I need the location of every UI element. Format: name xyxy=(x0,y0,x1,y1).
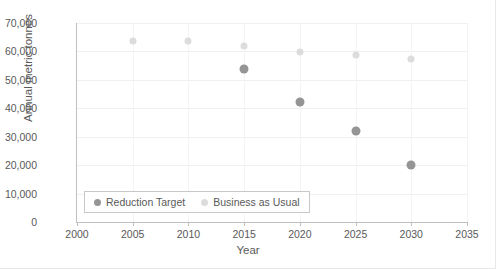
x-axis-tick-mark xyxy=(188,222,189,226)
x-axis-tick-label: 2035 xyxy=(437,228,496,240)
x-axis-tick-mark xyxy=(133,222,134,226)
x-axis-tick-mark xyxy=(467,222,468,226)
plot-area: 010,00020,00030,00040,00050,00060,00070,… xyxy=(76,23,467,223)
gridline-horizontal xyxy=(77,137,467,138)
gridline-horizontal xyxy=(77,23,467,24)
y-axis-tick-label: 60,000 xyxy=(0,45,37,57)
data-point xyxy=(129,38,136,45)
legend-item[interactable]: Reduction Target xyxy=(94,196,185,208)
x-axis-tick-mark xyxy=(356,222,357,226)
x-axis-tick-label: 2030 xyxy=(381,228,441,240)
y-axis-tick-label: 40,000 xyxy=(0,102,37,114)
data-point xyxy=(295,98,304,107)
y-axis-tick-label: 30,000 xyxy=(0,131,37,143)
y-axis-tick-label: 70,000 xyxy=(0,17,37,29)
y-axis-tick-label: 20,000 xyxy=(0,159,37,171)
x-axis-tick-mark xyxy=(244,222,245,226)
legend-item[interactable]: Business as Usual xyxy=(201,196,299,208)
x-axis-tick-label: 2015 xyxy=(214,228,274,240)
x-axis-tick-mark xyxy=(411,222,412,226)
legend-item-label: Business as Usual xyxy=(213,196,299,208)
gridline-vertical xyxy=(411,23,412,222)
gridline-horizontal xyxy=(77,51,467,52)
gridline-vertical xyxy=(467,23,468,222)
y-axis-tick-label: 10,000 xyxy=(0,188,37,200)
x-axis-tick-label: 2020 xyxy=(270,228,330,240)
data-point xyxy=(408,55,415,62)
x-axis-tick-label: 2005 xyxy=(103,228,163,240)
legend-item-label: Reduction Target xyxy=(106,196,185,208)
data-point xyxy=(240,65,249,74)
legend-marker-icon xyxy=(94,199,101,206)
data-point xyxy=(296,48,303,55)
chart-legend: Reduction TargetBusiness as Usual xyxy=(84,191,310,213)
gridline-horizontal xyxy=(77,80,467,81)
legend-marker-icon xyxy=(201,199,208,206)
x-axis-tick-mark xyxy=(300,222,301,226)
x-axis-tick-label: 2010 xyxy=(158,228,218,240)
data-point xyxy=(185,38,192,45)
scatter-chart-figure: Annual metric tonnes 010,00020,00030,000… xyxy=(0,0,496,269)
x-axis-title: Year xyxy=(0,244,496,256)
x-axis-tick-mark xyxy=(77,222,78,226)
gridline-horizontal xyxy=(77,108,467,109)
data-point xyxy=(407,161,416,170)
y-axis-tick-label: 50,000 xyxy=(0,74,37,86)
data-point xyxy=(352,52,359,59)
x-axis-tick-label: 2000 xyxy=(47,228,107,240)
data-point xyxy=(351,127,360,136)
y-axis-tick-label: 0 xyxy=(0,216,37,228)
data-point xyxy=(241,43,248,50)
x-axis-tick-label: 2025 xyxy=(326,228,386,240)
